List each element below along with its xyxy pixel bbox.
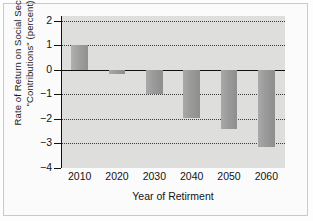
gridline <box>61 21 285 22</box>
gridline <box>61 119 285 120</box>
y-tick-label: −1 <box>26 87 52 99</box>
x-tick-label-2020: 2020 <box>97 170 137 182</box>
y-axis-title-line-1: Rate of Return on Social Security <box>12 0 24 149</box>
plot-area <box>61 16 285 168</box>
y-tick-label: 1 <box>26 38 52 50</box>
x-tick-label-2030: 2030 <box>134 170 174 182</box>
gridline <box>61 94 285 95</box>
x-tick-label-2050: 2050 <box>209 170 249 182</box>
y-tick-label: −3 <box>26 136 52 148</box>
y-tick-label: −2 <box>26 112 52 124</box>
bar-2060 <box>258 70 274 147</box>
bar-2020 <box>109 70 125 74</box>
x-axis-title: Year of Retirment <box>61 190 285 202</box>
x-tick-labels: 201020202030204020502060 <box>61 170 285 186</box>
x-tick-label-2040: 2040 <box>172 170 212 182</box>
y-tick-label: 2 <box>26 14 52 26</box>
bar-2050 <box>221 70 237 129</box>
y-tick <box>54 94 61 95</box>
y-tick-label: 0 <box>26 63 52 75</box>
y-tick <box>54 70 61 71</box>
y-tick-label: −4 <box>26 161 52 173</box>
figure-container: Rate of Return on Social Security "Contr… <box>0 0 313 221</box>
y-tick <box>54 119 61 120</box>
y-axis-spine <box>61 16 62 168</box>
plot-inner <box>61 16 285 168</box>
y-tick <box>54 21 61 22</box>
bar-2010 <box>71 45 87 70</box>
gridline <box>61 143 285 144</box>
zero-line <box>61 70 285 71</box>
bar-2030 <box>146 70 162 95</box>
y-tick <box>54 45 61 46</box>
x-tick-label-2060: 2060 <box>246 170 286 182</box>
gridline <box>61 45 285 46</box>
y-tick <box>54 143 61 144</box>
y-tick <box>54 168 61 169</box>
x-tick-label-2010: 2010 <box>60 170 100 182</box>
bar-2040 <box>183 70 199 118</box>
